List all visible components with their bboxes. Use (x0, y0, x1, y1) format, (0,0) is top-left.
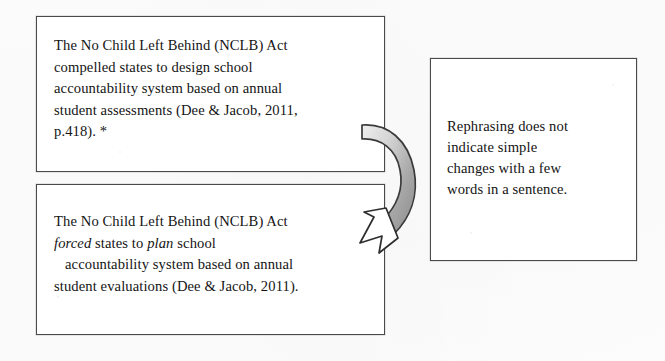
paraphrase-text: The No Child Left Behind (NCLB) Act forc… (37, 211, 384, 297)
comment-text: Rephrasing does not indicate simple chan… (431, 116, 636, 200)
scan-speck (57, 296, 59, 298)
comment-line-3: changes with a few (447, 158, 624, 179)
quotation-line-5: p.418). * (54, 121, 370, 143)
paraphrase-italic-plan: plan (147, 235, 173, 251)
comment-line-1: Rephrasing does not (447, 116, 624, 137)
quotation-line-1: The No Child Left Behind (NCLB) Act (54, 35, 370, 57)
quotation-line-3: accountability system based on annual (54, 78, 370, 100)
paraphrase-line-2-end: school (174, 235, 216, 251)
comment-box: Rephrasing does not indicate simple chan… (430, 58, 637, 261)
comment-line-4: words in a sentence. (447, 179, 624, 200)
paraphrase-line-3-text: accountability system based on annual (65, 256, 293, 272)
paraphrase-line-2-mid: states to (91, 235, 147, 251)
paraphrase-line-2: forced states to plan school (54, 233, 370, 255)
comment-line-2: indicate simple (447, 137, 624, 158)
original-quotation-box: The No Child Left Behind (NCLB) Act comp… (36, 16, 385, 172)
quotation-line-2: compelled states to design school (54, 57, 370, 79)
scan-speck (470, 232, 472, 234)
paraphrase-line-4: student evaluations (Dee & Jacob, 2011). (54, 276, 370, 298)
paraphrase-italic-forced: forced (54, 235, 91, 251)
document-page: The No Child Left Behind (NCLB) Act comp… (0, 0, 665, 361)
scan-speck (612, 84, 614, 86)
paraphrase-box: The No Child Left Behind (NCLB) Act forc… (36, 184, 385, 335)
quotation-line-4: student assessments (Dee & Jacob, 2011, (54, 100, 370, 122)
original-quotation-text: The No Child Left Behind (NCLB) Act comp… (37, 35, 384, 143)
paraphrase-line-3: accountability system based on annual (54, 254, 370, 276)
paraphrase-line-1: The No Child Left Behind (NCLB) Act (54, 211, 370, 233)
scan-speck (119, 151, 121, 153)
